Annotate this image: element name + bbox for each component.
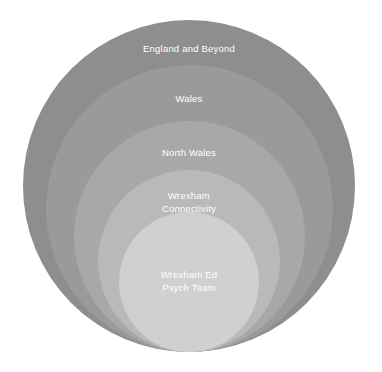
ring-label-wrexham-ed-psych-team: Wrexham Ed Psych Team: [119, 268, 259, 294]
ring-label-wales: Wales: [46, 92, 333, 105]
ring-label-england-and-beyond: England and Beyond: [23, 42, 355, 55]
ring-wrexham-ed-psych-team: Wrexham Ed Psych Team: [119, 212, 259, 352]
nested-circles-diagram: England and Beyond Wales North Wales Wre…: [0, 0, 382, 372]
ring-label-north-wales: North Wales: [74, 146, 305, 159]
